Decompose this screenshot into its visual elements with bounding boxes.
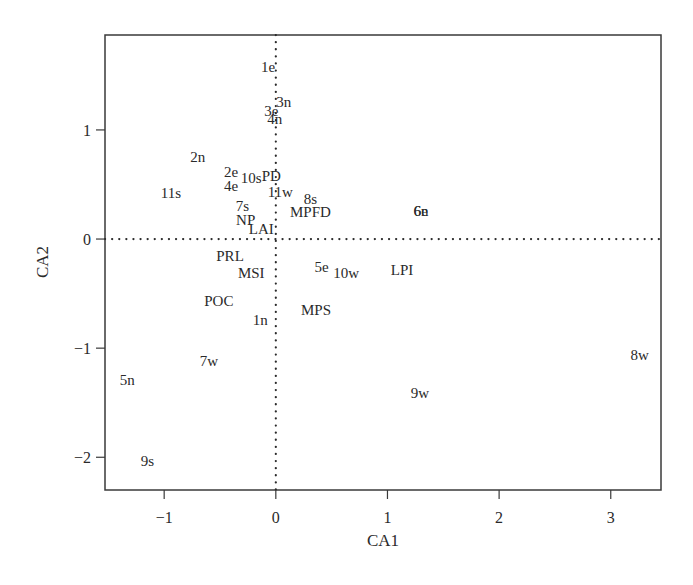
point-label: 5e xyxy=(315,259,330,275)
point-label: 11s xyxy=(161,185,181,201)
point-label: 1n xyxy=(253,312,269,328)
x-tick-label: 2 xyxy=(495,509,503,526)
point-label: MSI xyxy=(238,265,265,281)
point-label: POC xyxy=(204,293,233,309)
point-label: 3n xyxy=(276,94,292,110)
point-label: 6n xyxy=(413,203,429,219)
point-labels: 1e3n3e4n2n2e10sPD4e11s11w8s7sMPFD6e6nNPL… xyxy=(120,59,649,469)
point-label: LAI xyxy=(249,221,274,237)
y-tick-label: 1 xyxy=(83,122,91,139)
point-label: 10s xyxy=(241,170,262,186)
x-axis: −10123 xyxy=(156,490,615,526)
point-label: PD xyxy=(262,168,281,184)
y-tick-label: 0 xyxy=(83,231,91,248)
point-label: 9w xyxy=(411,385,430,401)
point-label: 1e xyxy=(261,59,276,75)
y-tick-label: −2 xyxy=(74,449,91,466)
point-label: 10w xyxy=(333,265,359,281)
x-tick-label: 1 xyxy=(383,509,391,526)
y-axis: −2−101 xyxy=(74,122,105,466)
point-label: 8w xyxy=(631,347,650,363)
y-axis-label: CA2 xyxy=(33,246,52,278)
point-label: 4n xyxy=(267,111,283,127)
point-label: MPS xyxy=(301,302,331,318)
point-label: PRL xyxy=(216,248,244,264)
point-label: MPFD xyxy=(290,204,331,220)
point-label: 5n xyxy=(120,372,136,388)
x-tick-label: 3 xyxy=(607,509,615,526)
y-tick-label: −1 xyxy=(74,340,91,357)
reference-lines xyxy=(105,35,661,490)
point-label: LPI xyxy=(391,262,414,278)
point-label: 4e xyxy=(224,178,239,194)
point-label: 11w xyxy=(268,184,293,200)
point-label: 2n xyxy=(190,149,206,165)
x-tick-label: −1 xyxy=(156,509,173,526)
ca-biplot: −10123 −2−101 1e3n3e4n2n2e10sPD4e11s11w8… xyxy=(0,0,693,585)
x-axis-label: CA1 xyxy=(367,531,399,550)
point-label: 7w xyxy=(200,353,219,369)
plot-frame xyxy=(105,35,661,490)
point-label: 9s xyxy=(141,453,155,469)
x-tick-label: 0 xyxy=(272,509,280,526)
